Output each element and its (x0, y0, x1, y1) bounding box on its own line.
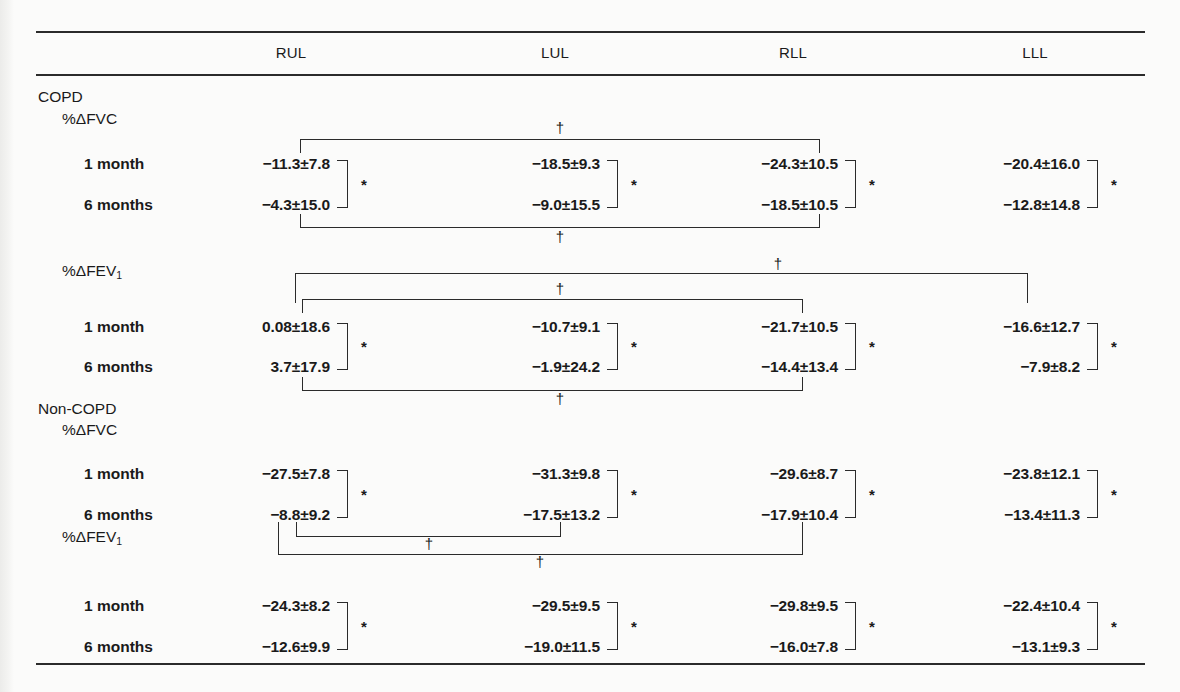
significance-star-noncopd-fvc-lul: * (631, 487, 637, 502)
dagger-noncopd-fvc-bottom-outer: † (480, 554, 600, 569)
cell-copd-fev1-6months-lll: −7.9±8.2 (932, 358, 1080, 376)
group-label-copd: COPD (38, 88, 83, 106)
cell-noncopd-fev1-6months-rul: −12.6±9.9 (182, 638, 330, 656)
cell-noncopd-fev1-1month-rll: −29.8±9.5 (690, 597, 838, 615)
cell-noncopd-fev1-1month-rul: −24.3±8.2 (182, 597, 330, 615)
column-header-rul: RUL (216, 44, 366, 61)
cell-noncopd-fvc-1month-rll: −29.6±8.7 (690, 465, 838, 483)
significance-star-copd-fvc-rll: * (869, 177, 875, 192)
cell-copd-fev1-1month-lul: −10.7±9.1 (452, 318, 600, 336)
cell-copd-fvc-1month-lll: −20.4±16.0 (932, 155, 1080, 173)
row-label-copd-fev1-6months: 6 months (84, 358, 153, 376)
metric-label-noncopd-fev1-text: %ΔFEV (62, 528, 116, 545)
table-top-rule (36, 31, 1145, 33)
row-label-copd-fev1-1month: 1 month (84, 318, 144, 336)
row-label-noncopd-fev1-6months: 6 months (84, 638, 153, 656)
group-label-non-copd: Non-COPD (38, 400, 116, 418)
pair-bracket-copd-fvc-lll (1087, 160, 1098, 208)
pair-bracket-noncopd-fvc-rul (337, 470, 348, 518)
cell-copd-fev1-6months-rul: 3.7±17.9 (182, 358, 330, 376)
cell-copd-fvc-1month-lul: −18.5±9.3 (452, 155, 600, 173)
metric-label-copd-fev1-text: %ΔFEV (62, 262, 116, 279)
cell-copd-fvc-6months-lul: −9.0±15.5 (452, 196, 600, 214)
row-label-copd-fvc-6months: 6 months (84, 196, 153, 214)
dagger-copd-fvc-top: † (500, 120, 620, 135)
cell-noncopd-fev1-6months-lul: −19.0±11.5 (452, 638, 600, 656)
cell-noncopd-fev1-1month-lll: −22.4±10.4 (932, 597, 1080, 615)
cell-copd-fvc-6months-lll: −12.8±14.8 (932, 196, 1080, 214)
pair-bracket-copd-fvc-lul (607, 160, 618, 208)
metric-label-noncopd-fev1: %ΔFEV1 (62, 528, 122, 546)
dagger-copd-fev1-top-inner: † (500, 281, 620, 296)
pair-bracket-copd-fev1-rul (337, 323, 348, 370)
pair-bracket-copd-fvc-rll (845, 160, 856, 208)
cell-noncopd-fvc-1month-lll: −23.8±12.1 (932, 465, 1080, 483)
cell-noncopd-fev1-6months-rll: −16.0±7.8 (690, 638, 838, 656)
pair-bracket-copd-fev1-lll (1087, 323, 1098, 370)
cell-copd-fvc-6months-rll: −18.5±10.5 (690, 196, 838, 214)
span-bracket-copd-fev1-top-inner (302, 299, 803, 313)
table-bottom-rule (36, 663, 1145, 665)
significance-star-noncopd-fev1-lll: * (1111, 619, 1117, 634)
pair-bracket-copd-fev1-rll (845, 323, 856, 370)
pair-bracket-copd-fev1-lul (607, 323, 618, 370)
cell-noncopd-fev1-1month-lul: −29.5±9.5 (452, 597, 600, 615)
span-bracket-copd-fev1-bottom (302, 377, 803, 391)
cell-copd-fvc-1month-rll: −24.3±10.5 (690, 155, 838, 173)
cell-noncopd-fvc-6months-lll: −13.4±11.3 (932, 506, 1080, 524)
significance-star-copd-fev1-lll: * (1111, 339, 1117, 354)
pair-bracket-noncopd-fev1-lll (1087, 602, 1098, 650)
significance-star-copd-fvc-lul: * (631, 177, 637, 192)
cell-copd-fvc-6months-rul: −4.3±15.0 (182, 196, 330, 214)
row-label-noncopd-fvc-6months: 6 months (84, 506, 153, 524)
cell-noncopd-fev1-6months-lll: −13.1±9.3 (932, 638, 1080, 656)
pair-bracket-noncopd-fvc-lll (1087, 470, 1098, 518)
column-header-lul: LUL (480, 44, 630, 61)
cell-copd-fev1-1month-lll: −16.6±12.7 (932, 318, 1080, 336)
row-label-noncopd-fev1-1month: 1 month (84, 597, 144, 615)
cell-noncopd-fvc-1month-rul: −27.5±7.8 (182, 465, 330, 483)
column-header-lll: LLL (960, 44, 1110, 61)
significance-star-noncopd-fvc-lll: * (1111, 487, 1117, 502)
results-table: RUL LUL RLL LLL COPD %ΔFVC 1 month 6 mon… (0, 0, 1180, 692)
cell-copd-fev1-1month-rll: −21.7±10.5 (690, 318, 838, 336)
cell-noncopd-fvc-1month-lul: −31.3±9.8 (452, 465, 600, 483)
dagger-copd-fev1-top-outer: † (718, 256, 838, 271)
cell-copd-fev1-1month-rul: 0.08±18.6 (182, 318, 330, 336)
metric-label-copd-fvc: %ΔFVC (62, 110, 117, 128)
span-bracket-copd-fvc-bottom (300, 214, 820, 228)
significance-star-noncopd-fvc-rul: * (361, 487, 367, 502)
pair-bracket-copd-fvc-rul (337, 160, 348, 208)
significance-star-copd-fvc-lll: * (1111, 177, 1117, 192)
pair-bracket-noncopd-fvc-lul (607, 470, 618, 518)
metric-label-copd-fev1: %ΔFEV1 (62, 262, 122, 280)
significance-star-noncopd-fvc-rll: * (869, 487, 875, 502)
metric-label-noncopd-fvc-text: %ΔFVC (62, 421, 117, 438)
row-label-copd-fvc-1month: 1 month (84, 155, 144, 173)
column-header-rll: RLL (718, 44, 868, 61)
metric-label-copd-fev1-subscript: 1 (116, 269, 122, 281)
metric-label-copd-fvc-text: %ΔFVC (62, 110, 117, 127)
significance-star-noncopd-fev1-lul: * (631, 619, 637, 634)
dagger-copd-fev1-bottom: † (500, 391, 620, 406)
metric-label-noncopd-fvc: %ΔFVC (62, 421, 117, 439)
row-label-noncopd-fvc-1month: 1 month (84, 465, 144, 483)
significance-star-copd-fev1-rll: * (869, 339, 875, 354)
significance-star-noncopd-fev1-rul: * (361, 619, 367, 634)
table-header-rule (36, 74, 1145, 76)
cell-copd-fev1-6months-rll: −14.4±13.4 (690, 358, 838, 376)
pair-bracket-noncopd-fvc-rll (845, 470, 856, 518)
significance-star-copd-fev1-lul: * (631, 339, 637, 354)
cell-copd-fev1-6months-lul: −1.9±24.2 (452, 358, 600, 376)
pair-bracket-noncopd-fev1-lul (607, 602, 618, 650)
significance-star-copd-fvc-rul: * (361, 177, 367, 192)
significance-star-noncopd-fev1-rll: * (869, 619, 875, 634)
span-bracket-noncopd-fvc-bottom-outer (278, 522, 803, 555)
metric-label-noncopd-fev1-subscript: 1 (116, 535, 122, 547)
pair-bracket-noncopd-fev1-rul (337, 602, 348, 650)
dagger-copd-fvc-bottom: † (500, 229, 620, 244)
span-bracket-copd-fvc-top (300, 139, 820, 153)
significance-star-copd-fev1-rul: * (361, 339, 367, 354)
cell-copd-fvc-1month-rul: −11.3±7.8 (182, 155, 330, 173)
pair-bracket-noncopd-fev1-rll (845, 602, 856, 650)
